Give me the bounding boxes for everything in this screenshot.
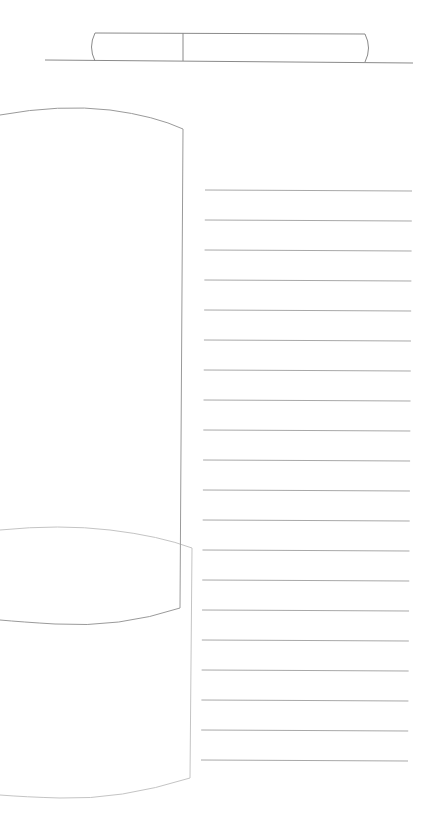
ruled-line (202, 550, 409, 551)
ruled-line (204, 310, 411, 311)
ruled-line (203, 430, 410, 431)
ruled-line (204, 370, 411, 371)
header-tab (45, 33, 413, 63)
ruled-line (205, 220, 412, 221)
upper-panel (0, 108, 183, 625)
ruled-line (201, 700, 408, 701)
ruled-line (201, 760, 408, 761)
ruled-line (204, 340, 411, 341)
ruled-line (203, 490, 410, 491)
ruled-line (204, 400, 411, 401)
ruled-line (202, 670, 409, 671)
ruled-line (202, 640, 409, 641)
header-tab-outline (92, 33, 369, 62)
ruled-line (202, 610, 409, 611)
ruled-line (204, 280, 411, 281)
ruled-line (203, 460, 410, 461)
lower-panel (0, 527, 192, 798)
ruled-lines (201, 190, 412, 761)
ruled-line (201, 730, 408, 731)
ruled-line (202, 580, 409, 581)
line-drawing-canvas (0, 0, 435, 839)
ruled-line (205, 190, 412, 191)
header-baseline (45, 60, 413, 63)
ruled-line (205, 250, 412, 251)
ruled-line (203, 520, 410, 521)
